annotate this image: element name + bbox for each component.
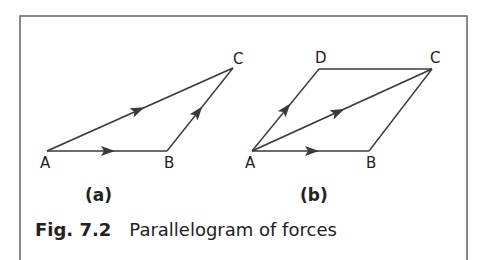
panel-a-label: (a) bbox=[85, 187, 112, 204]
point-label-a-B: B bbox=[164, 156, 174, 171]
point-label-a-A: A bbox=[40, 156, 50, 171]
point-label-b-C: C bbox=[430, 51, 440, 66]
point-label-b-B: B bbox=[366, 156, 376, 171]
panel-a-triangle bbox=[47, 68, 233, 156]
arrow-icon bbox=[330, 105, 347, 120]
point-label-b-D: D bbox=[315, 51, 327, 66]
figure-caption-text: Parallelogram of forces bbox=[129, 219, 336, 240]
figure-caption: Fig. 7.2Parallelogram of forces bbox=[35, 221, 337, 239]
panel-b-parallelogram bbox=[252, 69, 432, 156]
point-label-b-A: A bbox=[245, 156, 255, 171]
arrow-icon bbox=[190, 103, 207, 120]
point-label-a-C: C bbox=[233, 52, 243, 67]
panel-b-label: (b) bbox=[300, 187, 328, 204]
arrow-icon bbox=[130, 103, 147, 118]
figure-number: Fig. 7.2 bbox=[35, 219, 111, 240]
